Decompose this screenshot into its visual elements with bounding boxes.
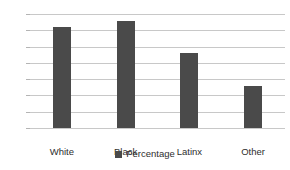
- legend-label-percentage: Percentage: [126, 149, 175, 159]
- chart-legend: Percentage: [0, 149, 290, 159]
- legend-swatch-icon: [115, 151, 122, 158]
- plot-area: 0%5%10%15%20%25%30%35% WhiteBlackLatinxO…: [30, 14, 285, 128]
- y-axis-tick: [26, 128, 30, 129]
- bars-group: [30, 14, 285, 128]
- bar-latinx: [180, 53, 198, 128]
- bar-white: [53, 27, 71, 128]
- gridline: [30, 128, 285, 129]
- bar-chart: 0%5%10%15%20%25%30%35% WhiteBlackLatinxO…: [0, 0, 290, 170]
- bar-black: [117, 21, 135, 128]
- bar-other: [244, 86, 262, 128]
